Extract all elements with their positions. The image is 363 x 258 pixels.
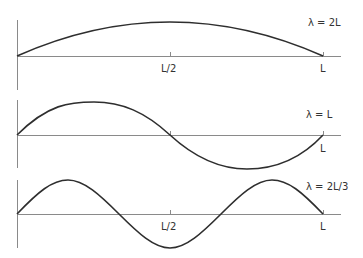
x-label-end: L [320,221,326,232]
x-label-end: L [320,143,326,154]
panel-mode-1: λ = 2L L/2 L [17,17,341,90]
x-label-half: L/2 [161,221,176,232]
wavelength-label: λ = 2L/3 [306,181,348,192]
x-label-end: L [320,63,326,74]
wave-curve-mode-1 [17,22,323,56]
x-label-half: L/2 [161,63,176,74]
wavelength-label: λ = 2L [308,17,341,28]
panel-mode-3: λ = 2L/3 L/2 L [17,180,348,248]
standing-waves-diagram: λ = 2L L/2 L λ = L L λ = 2L/3 L/2 L [0,0,363,258]
wavelength-label: λ = L [306,109,333,120]
panel-mode-2: λ = L L [17,100,341,169]
